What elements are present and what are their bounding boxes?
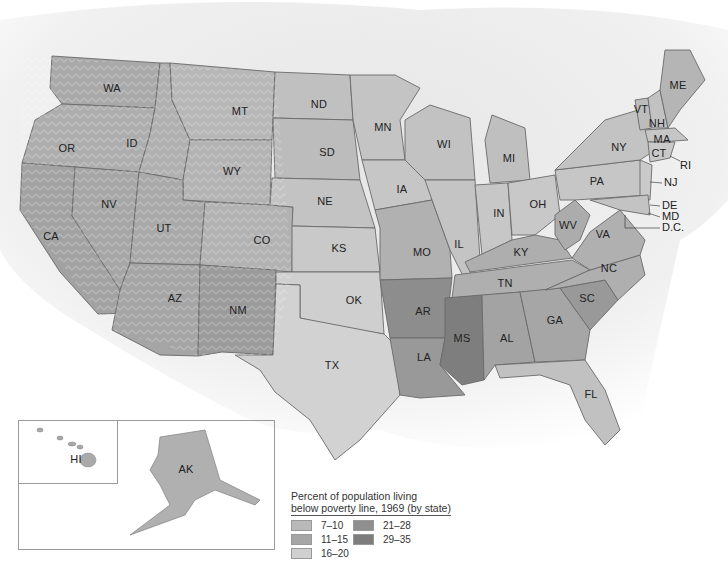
- state-label-sd: SD: [319, 147, 335, 158]
- state-label-co: CO: [254, 235, 271, 246]
- legend-range: 21–28: [383, 520, 411, 531]
- legend-title: Percent of population living below pover…: [291, 490, 451, 516]
- state-label-ar: AR: [415, 306, 431, 317]
- state-SD: [273, 118, 360, 180]
- legend-range: 29–35: [383, 534, 411, 545]
- state-label-al: AL: [500, 333, 514, 344]
- state-label-ct: CT: [651, 148, 666, 159]
- state-label-ks: KS: [331, 243, 346, 254]
- state-label-oh: OH: [530, 199, 547, 210]
- state-label-ca: CA: [43, 231, 59, 242]
- legend-range: 16–20: [321, 548, 349, 559]
- state-label-pa: PA: [590, 176, 604, 187]
- state-label-in: IN: [493, 208, 504, 219]
- legend-swatch: [291, 548, 312, 559]
- state-label-ma: MA: [654, 134, 671, 145]
- state-label-tx: TX: [325, 360, 339, 371]
- state-label-mi: MI: [503, 153, 516, 164]
- legend-item-21-28: 21–28: [353, 520, 411, 531]
- state-label-nm: NM: [229, 305, 247, 316]
- legend: Percent of population living below pover…: [291, 490, 451, 562]
- state-label-nv: NV: [101, 199, 117, 210]
- state-label-wv: WV: [559, 220, 577, 231]
- callout-label-dc: D.C.: [662, 222, 684, 233]
- state-label-wi: WI: [437, 139, 451, 150]
- state-label-wy: WY: [223, 166, 241, 177]
- legend-range: 11–15: [321, 534, 348, 545]
- legend-swatch: [353, 520, 374, 531]
- state-label-wa: WA: [103, 83, 121, 94]
- state-label-nd: ND: [311, 99, 327, 110]
- legend-item-11-15: 11–15: [291, 534, 348, 545]
- callout-label-ri: RI: [680, 160, 691, 171]
- state-label-fl: FL: [584, 389, 597, 400]
- state-label-nc: NC: [601, 263, 617, 274]
- legend-swatch: [291, 520, 312, 531]
- legend-title-line2: below poverty line, 1969 (by state): [291, 502, 451, 516]
- legend-title-line1: Percent of population living: [291, 490, 451, 502]
- legend-swatch: [291, 534, 312, 545]
- legend-swatch: [353, 534, 374, 545]
- state-label-ga: GA: [547, 315, 563, 326]
- state-NJ: [640, 160, 652, 200]
- state-label-sc: SC: [579, 293, 595, 304]
- state-label-or: OR: [59, 143, 76, 154]
- legend-items: 7–10 11–15 16–20 21–28 29–35: [291, 520, 451, 562]
- state-label-me: ME: [670, 80, 687, 91]
- state-label-il: IL: [454, 239, 464, 250]
- state-label-ut: UT: [156, 223, 171, 234]
- legend-range: 7–10: [321, 520, 343, 531]
- legend-item-7-10: 7–10: [291, 520, 343, 531]
- callout-label-nj: NJ: [664, 177, 677, 188]
- state-ND: [273, 72, 353, 120]
- legend-item-29-35: 29–35: [353, 534, 411, 545]
- state-label-vt: VT: [634, 104, 648, 115]
- legend-item-16-20: 16–20: [291, 548, 349, 559]
- inset-alaska-hawaii: [18, 420, 275, 550]
- state-label-nh: NH: [649, 118, 665, 129]
- state-label-id: ID: [126, 138, 137, 149]
- poverty-map: WAORIDMTWYNVUTCACOAZNMNDSDNEKSOKTXMNIAMO…: [0, 0, 728, 567]
- state-label-va: VA: [596, 229, 610, 240]
- state-label-ne: NE: [317, 196, 333, 207]
- inset-hawaii-frame: [19, 421, 118, 484]
- state-label-ny: NY: [611, 142, 627, 153]
- state-label-tn: TN: [497, 278, 512, 289]
- state-label-ok: OK: [346, 295, 362, 306]
- state-label-mn: MN: [374, 122, 392, 133]
- state-label-ms: MS: [454, 333, 471, 344]
- state-label-mt: MT: [232, 106, 248, 117]
- state-label-la: LA: [417, 352, 431, 363]
- state-label-mo: MO: [413, 247, 431, 258]
- state-label-az: AZ: [168, 293, 182, 304]
- state-label-ky: KY: [513, 247, 528, 258]
- state-label-ia: IA: [397, 184, 408, 195]
